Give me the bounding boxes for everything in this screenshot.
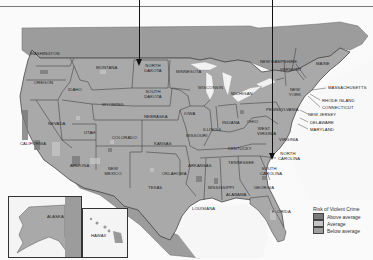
legend-label: Average	[327, 221, 346, 227]
legend-swatch-below-average	[313, 227, 324, 234]
legend-item-above-average: Above average	[313, 213, 371, 220]
label-alaska: ALASKA	[47, 215, 64, 220]
legend-title: Risk of Violent Crime	[313, 206, 371, 212]
legend: Risk of Violent Crime Above average Aver…	[313, 206, 371, 234]
legend-swatch-average	[313, 220, 324, 227]
legend-swatch-above-average	[313, 213, 324, 220]
legend-label: Above average	[327, 214, 361, 220]
legend-item-average: Average	[313, 220, 371, 227]
legend-label: Below average	[327, 228, 360, 234]
alaska-shape	[9, 197, 81, 257]
alaska-inset: ALASKA	[8, 196, 82, 258]
label-hawaii: HAWAII	[91, 234, 106, 239]
hawaii-inset: HAWAII	[82, 208, 128, 258]
legend-item-below-average: Below average	[313, 227, 371, 234]
